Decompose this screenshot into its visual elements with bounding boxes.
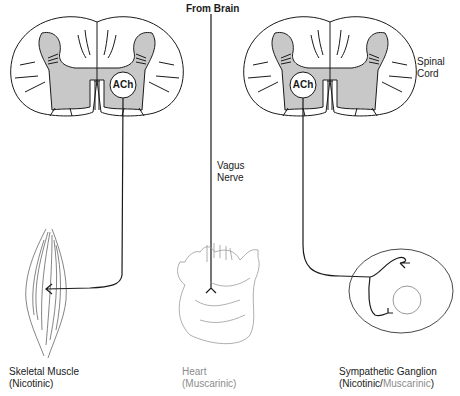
ganglion-receptor-muscarinic: Muscarinic [383,378,431,389]
skeletal-muscle-label: Skeletal Muscle (Nicotinic) [9,366,79,390]
ganglion-receptor: (Nicotinic/Muscarinic) [339,378,437,390]
vagus-line1: Vagus [217,160,245,172]
ganglion-name: Sympathetic Ganglion [339,366,437,378]
left-ach-label: ACh [110,79,136,91]
vagus-nerve-label: Vagus Nerve [217,160,245,184]
skeletal-muscle-name: Skeletal Muscle [9,366,79,378]
right-ach-label: ACh [290,79,316,91]
heart-illustration [178,243,260,344]
from-brain-label: From Brain [186,3,239,15]
right-spinal-cord [244,17,417,116]
spinal-cord-label: Spinal Cord [417,56,445,80]
skeletal-muscle-illustration [26,229,67,358]
sympathetic-ganglion-illustration [349,249,453,333]
left-spinal-cord [11,17,184,116]
ganglion-receptor-nicotinic: (Nicotinic/ [339,378,383,389]
ganglion-receptor-close: ) [431,378,434,389]
heart-label: Heart (Muscarinic) [182,366,236,390]
left-motor-nerve [46,98,123,294]
skeletal-muscle-receptor: (Nicotinic) [9,378,79,390]
vagus-line2: Nerve [217,172,245,184]
diagram-canvas [0,0,460,396]
spinal-cord-line1: Spinal [417,56,445,68]
heart-receptor: (Muscarinic) [182,378,236,390]
right-preganglionic-nerve [303,98,410,316]
spinal-cord-line2: Cord [417,68,445,80]
heart-name: Heart [182,366,236,378]
sympathetic-ganglion-label: Sympathetic Ganglion (Nicotinic/Muscarin… [339,366,437,390]
